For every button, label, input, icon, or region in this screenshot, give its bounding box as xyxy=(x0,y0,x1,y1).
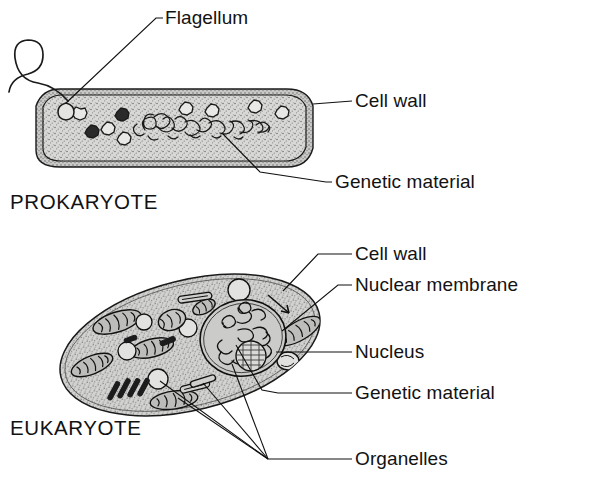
label-flagellum: Flagellum xyxy=(165,8,248,27)
caption-eukaryote: EUKARYOTE xyxy=(10,418,141,439)
flagellum-tail xyxy=(9,40,68,101)
label-eukaryote-nuclear-membrane: Nuclear membrane xyxy=(355,275,518,294)
label-eukaryote-nucleus: Nucleus xyxy=(355,342,424,361)
flagellum-basal-body xyxy=(58,103,74,120)
eukaryote-nucleolus xyxy=(236,341,266,371)
label-eukaryote-organelles: Organelles xyxy=(355,449,448,468)
prokaryote-cell-wall-leader-line xyxy=(313,101,352,104)
prokaryote-cell-drawing xyxy=(9,18,352,182)
label-prokaryote-genetic-material: Genetic material xyxy=(335,172,475,191)
cell-diagram-figure: Flagellum Cell wall Genetic material PRO… xyxy=(0,0,589,489)
label-prokaryote-cell-wall: Cell wall xyxy=(355,91,427,110)
caption-prokaryote: PROKARYOTE xyxy=(10,192,158,213)
label-eukaryote-cell-wall: Cell wall xyxy=(355,244,427,263)
label-eukaryote-genetic-material: Genetic material xyxy=(355,383,495,402)
